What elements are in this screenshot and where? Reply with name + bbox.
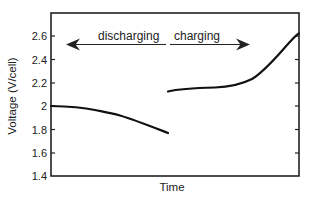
- y-tick-2.4: 2.4: [32, 54, 47, 66]
- discharging-curve: [51, 106, 168, 133]
- y-axis-label: Voltage (V/cell): [6, 57, 18, 135]
- y-tick-2.0: 2: [41, 100, 47, 112]
- x-axis-label: Time: [159, 181, 184, 193]
- y-tick-1.4: 1.4: [32, 170, 47, 182]
- discharging-annotation: discharging: [66, 29, 166, 51]
- y-tick-2.6: 2.6: [32, 30, 47, 42]
- voltage-time-chart: 2.6 2.4 2.2 2 1.8 1.6 1.4 Voltage (V/cel…: [0, 0, 312, 199]
- charging-annotation: charging: [170, 29, 250, 51]
- y-tick-1.8: 1.8: [32, 124, 47, 136]
- discharging-label: discharging: [98, 29, 159, 43]
- y-tick-1.6: 1.6: [32, 147, 47, 159]
- y-tick-labels: 2.6 2.4 2.2 2 1.8 1.6 1.4: [32, 30, 47, 182]
- y-tick-2.2: 2.2: [32, 77, 47, 89]
- charging-label: charging: [174, 29, 220, 43]
